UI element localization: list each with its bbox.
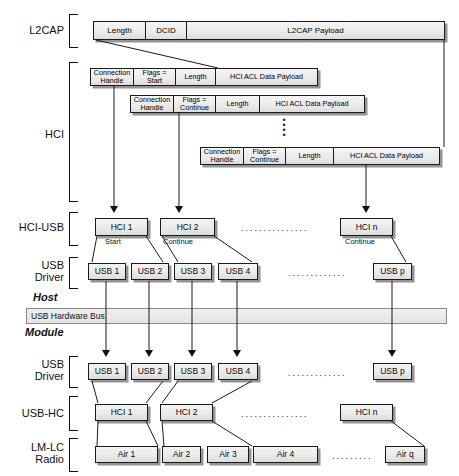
diagram-canvas: L2CAP HCI HCI-USB USB Driver Host Module…: [0, 0, 459, 476]
arrowhead-bus-usb3: [188, 350, 196, 357]
connector-lines: [0, 0, 459, 476]
arrowhead-bus-usb2: [145, 350, 153, 357]
arrowhead-bus-usb4: [233, 350, 241, 357]
arrowhead-bus-usb1: [102, 350, 110, 357]
arrowhead-hci1-to-hciusb: [110, 206, 118, 213]
arrowhead-bus-usbp: [388, 350, 396, 357]
arrowhead-hcin-to-hciusb: [362, 206, 370, 213]
arrowhead-hci2-to-hciusb: [175, 206, 183, 213]
